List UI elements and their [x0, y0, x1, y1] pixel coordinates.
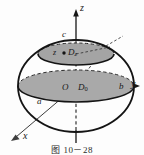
equator-label-sub: 0 — [85, 85, 88, 92]
origin-label: O — [62, 83, 69, 92]
ellipsoid-diagram — [0, 0, 144, 155]
intercept-label-c: c — [62, 30, 66, 39]
intercept-label-b: b — [119, 82, 124, 91]
z-axis-arrow-icon — [73, 9, 79, 17]
figure-container: z c y b x a O z Dz D0 图 10－28 — [0, 0, 144, 155]
axis-label-y: y — [131, 79, 135, 89]
intercept-label-a: a — [37, 97, 42, 106]
cross-section-label: Dz — [68, 48, 77, 58]
axis-label-z: z — [80, 3, 84, 13]
axis-label-x: x — [23, 131, 27, 141]
height-marker-label: z — [53, 49, 56, 57]
upper-right-leader — [106, 36, 123, 46]
equator-label: D0 — [78, 83, 88, 93]
cross-section-label-sub: z — [75, 50, 78, 57]
figure-caption: 图 10－28 — [0, 144, 144, 155]
cross-section-center-dot — [62, 51, 65, 54]
